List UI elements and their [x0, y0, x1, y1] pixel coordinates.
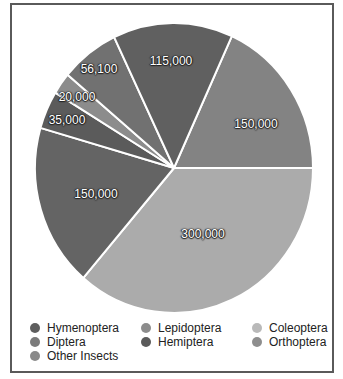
slice-value-label: 35,000 — [49, 113, 86, 127]
legend-item: Hemiptera — [141, 335, 213, 349]
legend-swatch-icon — [252, 323, 262, 333]
slice-value-label: 300,000 — [181, 227, 224, 241]
legend-swatch-icon — [252, 337, 262, 347]
slice-value-label: 56,100 — [81, 62, 118, 76]
slice-value-label: 115,000 — [150, 54, 193, 68]
legend-label: Hymenoptera — [47, 321, 119, 335]
legend-item: Lepidoptera — [141, 321, 221, 335]
legend-swatch-icon — [30, 323, 40, 333]
legend-item: Other Insects — [30, 349, 118, 363]
legend-label: Hemiptera — [158, 335, 213, 349]
legend-item: Diptera — [30, 335, 86, 349]
slice-value-label: 150,000 — [74, 187, 117, 201]
legend-swatch-icon — [141, 337, 151, 347]
legend-item: Orthoptera — [252, 335, 326, 349]
legend-label: Diptera — [47, 335, 86, 349]
legend-item: Coleoptera — [252, 321, 328, 335]
legend-item: Hymenoptera — [30, 321, 119, 335]
legend-swatch-icon — [30, 337, 40, 347]
legend-swatch-icon — [141, 323, 151, 333]
legend-label: Lepidoptera — [158, 321, 221, 335]
legend-label: Coleoptera — [269, 321, 328, 335]
legend-swatch-icon — [30, 351, 40, 361]
slice-value-label: 20,000 — [59, 90, 96, 104]
legend-label: Orthoptera — [269, 335, 326, 349]
legend-label: Other Insects — [47, 349, 118, 363]
slice-value-label: 150,000 — [234, 117, 277, 131]
